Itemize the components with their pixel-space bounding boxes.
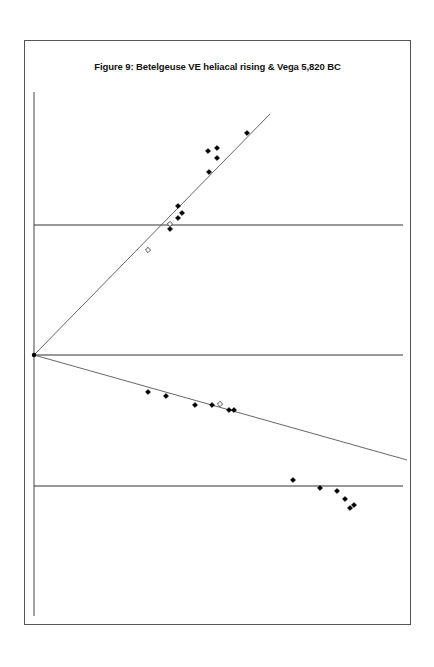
filled-diamond-marker: [163, 393, 168, 398]
filled-diamond-marker: [347, 505, 352, 510]
origin-marker: [32, 353, 36, 357]
filled-diamond-marker: [145, 389, 150, 394]
filled-diamond-marker: [179, 210, 184, 215]
filled-diamond-marker: [209, 402, 214, 407]
filled-diamond-marker: [334, 488, 339, 493]
filled-diamond-marker: [205, 148, 210, 153]
filled-diamond-marker: [192, 402, 197, 407]
filled-diamond-marker: [175, 215, 180, 220]
open-diamond-marker: [145, 247, 150, 252]
filled-diamond-marker: [214, 155, 219, 160]
filled-diamond-marker: [167, 226, 172, 231]
open-diamond-marker: [217, 401, 222, 406]
filled-diamond-marker: [351, 502, 356, 507]
upper-trend-line: [34, 114, 270, 355]
filled-diamond-marker: [342, 496, 347, 501]
filled-diamond-marker: [290, 477, 295, 482]
filled-diamond-marker: [226, 407, 231, 412]
lower-trend-line: [34, 355, 407, 460]
open-diamond-marker: [167, 221, 172, 226]
filled-diamond-marker: [244, 130, 249, 135]
plot-area: [0, 0, 434, 667]
filled-diamond-marker: [175, 203, 180, 208]
filled-diamond-marker: [214, 145, 219, 150]
